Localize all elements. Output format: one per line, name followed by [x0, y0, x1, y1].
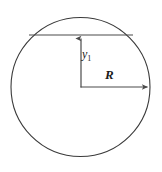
- figure-canvas: y1 R: [0, 0, 162, 172]
- radius-label: R: [104, 67, 114, 82]
- y1-label: y1: [81, 47, 91, 63]
- geometry-figure: y1 R: [0, 0, 162, 172]
- y1-label-subscript: 1: [87, 54, 91, 63]
